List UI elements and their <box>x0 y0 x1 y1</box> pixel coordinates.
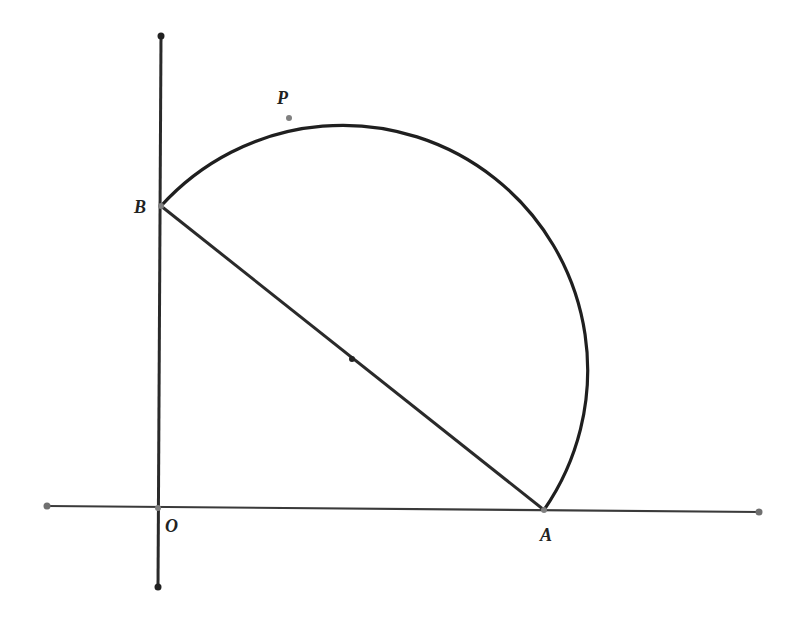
y-axis-bottom-end <box>155 584 162 591</box>
y-axis-top-end <box>158 33 165 40</box>
y-axis <box>158 36 161 587</box>
label-o: O <box>165 516 178 536</box>
point-o <box>155 505 161 511</box>
point-a <box>541 507 547 513</box>
point-b <box>158 203 164 209</box>
label-b: B <box>133 197 146 217</box>
x-axis-right-end <box>756 509 763 516</box>
semicircle-arc <box>161 125 588 510</box>
point-p <box>286 115 292 121</box>
midpoint-m <box>349 356 355 362</box>
geometry-figure: O A B P <box>0 0 792 620</box>
x-axis-left-end <box>44 503 51 510</box>
label-p: P <box>276 88 289 108</box>
label-a: A <box>539 525 552 545</box>
x-axis <box>47 506 759 512</box>
